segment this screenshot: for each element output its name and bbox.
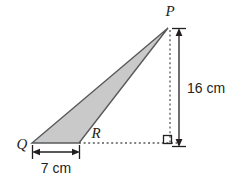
vertex-label-r: R [90,125,100,141]
vertex-label-p: P [164,3,174,19]
height-dimension-label: 16 cm [187,80,225,96]
base-dimension-group [32,145,80,159]
geometry-diagram-figure: P Q R 7 cm 16 cm [0,0,229,183]
base-arrow-left-icon [32,149,40,156]
height-dimension-group [172,28,186,147]
height-arrow-top-icon [176,28,183,36]
figure-canvas: P Q R 7 cm 16 cm [0,0,229,183]
vertex-label-q: Q [17,136,28,152]
base-arrow-right-icon [72,149,80,156]
base-dimension-label: 7 cm [41,160,71,176]
